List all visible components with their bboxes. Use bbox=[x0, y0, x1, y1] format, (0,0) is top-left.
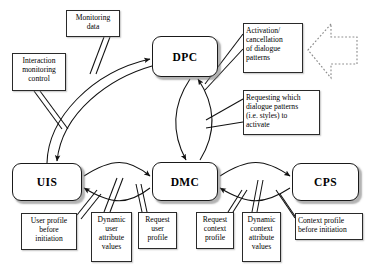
node-dpc[interactable]: DPC bbox=[152, 36, 218, 77]
node-uis[interactable]: UIS bbox=[12, 163, 82, 201]
label-request-user-profile: Request user profile bbox=[138, 212, 177, 249]
label-user-profile-before-initiation: User profile before initiation bbox=[21, 213, 77, 250]
node-cps[interactable]: CPS bbox=[292, 163, 359, 201]
dotted-block-arrow-shape bbox=[308, 24, 357, 78]
label-interaction-monitoring-control: Interaction monitoring control bbox=[12, 53, 66, 91]
label-requesting-dialogue-patterns: Requesting which dialogue patterns (i.e.… bbox=[243, 90, 320, 135]
node-dpc-label: DPC bbox=[173, 51, 198, 63]
label-request-context-profile: Request context profile bbox=[196, 212, 234, 249]
label-dynamic-context-attribute-values: Dynamic context attribute values bbox=[242, 212, 281, 262]
label-dynamic-user-attribute-values: Dynamic user attribute values bbox=[91, 212, 132, 262]
diagram-canvas: DPC UIS DMC CPS Monitoring data Interact… bbox=[0, 0, 371, 271]
node-cps-label: CPS bbox=[314, 176, 337, 188]
label-context-profile-before-initiation: Context profile before initiation bbox=[295, 213, 363, 240]
node-uis-label: UIS bbox=[37, 176, 57, 188]
label-monitoring-data: Monitoring data bbox=[66, 10, 120, 37]
node-dmc[interactable]: DMC bbox=[152, 162, 218, 201]
label-activation-cancellation: Activation/ cancellation of dialogue pat… bbox=[243, 23, 303, 73]
node-dmc-label: DMC bbox=[171, 176, 200, 188]
